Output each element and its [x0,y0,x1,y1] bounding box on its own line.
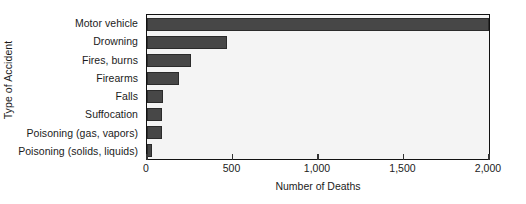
x-axis-tick-label: 2,000 [475,162,501,174]
category-axis-labels: Motor vehicle Drowning Fires, burns Fire… [18,14,142,160]
bar [147,90,163,103]
bar [147,126,162,139]
x-axis-tick-label: 0 [143,162,149,174]
x-axis-tick [488,154,490,160]
category-label: Suffocation [18,105,142,123]
category-label: Drowning [18,32,142,50]
category-label: Poisoning (gas, vapors) [18,124,142,142]
category-label: Poisoning (solids, liquids) [18,142,142,160]
bar-row [147,33,489,51]
y-axis-title-text: Type of Accident [2,41,14,120]
y-axis-title: Type of Accident [0,0,16,160]
bar [147,108,162,121]
bar-row [147,105,489,123]
bar-row [147,87,489,105]
bar [147,54,191,67]
bar-row [147,15,489,33]
bar [147,144,152,157]
x-axis-tick [317,154,319,160]
bar-chart: Type of Accident Motor vehicle Drowning … [0,0,526,204]
bar [147,72,179,85]
bar-row [147,51,489,69]
bar-row [147,123,489,141]
x-axis-tick [146,154,148,160]
category-label: Firearms [18,69,142,87]
x-axis-title: Number of Deaths [146,180,490,192]
x-axis-tick [403,154,405,160]
x-axis-tick [232,154,234,160]
bar [147,18,489,31]
category-label: Motor vehicle [18,14,142,32]
bar-row [147,69,489,87]
x-axis-tick-label: 1,500 [389,162,415,174]
x-axis-tick-label: 500 [223,162,241,174]
category-label: Fires, burns [18,51,142,69]
bars-layer [147,15,489,159]
x-axis-tick-label: 1,000 [304,162,330,174]
x-axis-tick-labels: 05001,0001,5002,000 [146,162,490,176]
plot-area [146,14,490,160]
category-label: Falls [18,87,142,105]
bar [147,36,227,49]
